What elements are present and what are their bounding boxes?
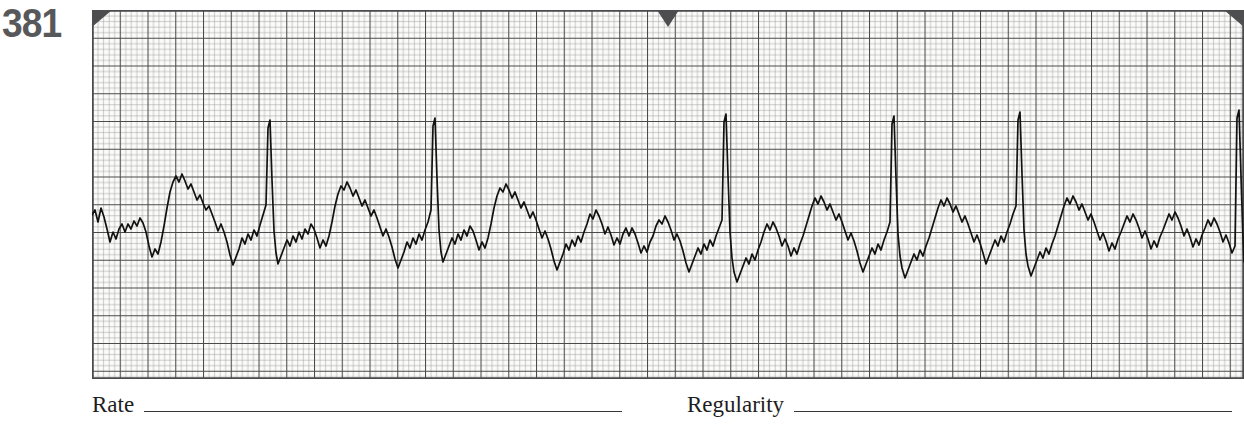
ecg-rhythm-strip (92, 10, 1244, 379)
field-regularity[interactable]: Regularity (687, 390, 1232, 420)
field-regularity-rule[interactable] (794, 411, 1232, 412)
field-regularity-label: Regularity (687, 390, 784, 420)
answer-fields: Rate Regularity (0, 386, 1244, 430)
field-rate[interactable]: Rate (92, 390, 622, 420)
plate-number: 381 (2, 2, 82, 44)
ecg-plate-page: 381 Rate (0, 0, 1244, 430)
field-rate-label: Rate (92, 390, 134, 420)
field-rate-rule[interactable] (144, 411, 622, 412)
ecg-waveform (92, 10, 1244, 379)
